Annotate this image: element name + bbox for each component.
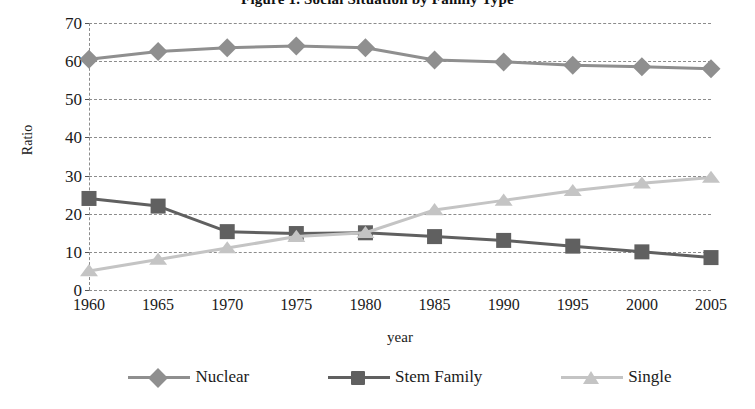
- x-axis-tick-label: 1995: [543, 296, 603, 314]
- legend-item-stem-family[interactable]: Stem Family: [328, 367, 482, 387]
- y-axis-tick: [85, 290, 89, 291]
- data-point-marker: [702, 59, 721, 78]
- plot-area: [89, 23, 711, 290]
- x-axis-tick-labels: 1960196519701975198019851990199520002005: [89, 296, 711, 322]
- square-marker-icon: [351, 371, 365, 385]
- legend-label: Nuclear: [195, 367, 249, 387]
- series-layer: [89, 23, 711, 290]
- x-axis-title: year: [89, 329, 711, 346]
- x-axis-tick-label: 1990: [474, 296, 534, 314]
- y-axis-tick-label: 40: [42, 129, 82, 146]
- x-axis-tick-label: 1985: [405, 296, 465, 314]
- y-axis-tick-label: 70: [42, 15, 82, 32]
- data-point-marker: [494, 52, 513, 71]
- data-point-marker: [425, 50, 444, 69]
- chart-container: Figure 1. Social Situation by Family Typ…: [0, 0, 755, 409]
- data-point-marker: [565, 239, 580, 254]
- data-point-marker: [427, 229, 442, 244]
- series-line: [89, 46, 711, 69]
- data-point-marker: [287, 36, 306, 55]
- x-axis-tick-label: 2000: [612, 296, 672, 314]
- series-line: [89, 177, 711, 270]
- legend-swatch: [128, 368, 190, 386]
- y-axis-tick-label: 20: [42, 205, 82, 222]
- legend-label: Stem Family: [395, 367, 482, 387]
- gridline: [89, 290, 711, 291]
- legend-item-single[interactable]: Single: [561, 367, 671, 387]
- y-axis-title: Ratio: [20, 90, 36, 190]
- data-point-marker: [632, 57, 651, 76]
- chart-title: Figure 1. Social Situation by Family Typ…: [0, 0, 755, 8]
- chart-legend: NuclearStem FamilySingle: [89, 360, 711, 394]
- x-axis-tick-label: 1980: [335, 296, 395, 314]
- series-line: [89, 198, 711, 257]
- diamond-marker-icon: [148, 368, 168, 388]
- data-point-marker: [80, 50, 99, 69]
- x-axis-tick-label: 1965: [128, 296, 188, 314]
- data-point-marker: [218, 38, 237, 57]
- y-axis-tick-labels: 010203040506070: [38, 23, 82, 290]
- y-axis-tick-label: 30: [42, 167, 82, 184]
- data-point-marker: [634, 244, 649, 259]
- x-axis-tick-label: 1970: [197, 296, 257, 314]
- legend-swatch: [561, 368, 623, 386]
- legend-swatch: [328, 368, 390, 386]
- series-stem-family: [82, 191, 719, 265]
- data-point-marker: [82, 191, 97, 206]
- y-axis-tick-label: 60: [42, 53, 82, 70]
- data-point-marker: [704, 250, 719, 265]
- y-axis-tick-label: 50: [42, 91, 82, 108]
- data-point-marker: [356, 38, 375, 57]
- x-axis-tick-label: 1960: [59, 296, 119, 314]
- data-point-marker: [220, 224, 235, 239]
- data-point-marker: [149, 42, 168, 61]
- series-single: [80, 171, 720, 277]
- legend-label: Single: [628, 367, 671, 387]
- y-axis-tick-label: 10: [42, 243, 82, 260]
- triangle-marker-icon: [583, 371, 599, 384]
- legend-item-nuclear[interactable]: Nuclear: [128, 367, 249, 387]
- data-point-marker: [151, 199, 166, 214]
- x-axis-tick-label: 1975: [266, 296, 326, 314]
- data-point-marker: [563, 56, 582, 75]
- x-axis-tick-label: 2005: [681, 296, 741, 314]
- data-point-marker: [496, 233, 511, 248]
- series-nuclear: [80, 36, 721, 78]
